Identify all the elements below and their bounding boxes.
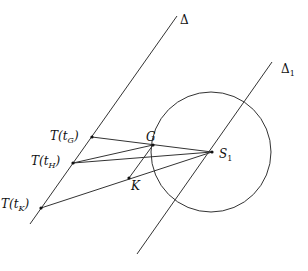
label-t-th-sub: H [49,161,56,170]
label-t-tk-prefix: T(t [1,197,19,211]
label-g: G [146,131,156,143]
label-t-th-suffix: ) [56,154,61,168]
segment-th-s1 [73,152,212,163]
point-s1 [210,150,213,153]
label-k-text: K [131,179,140,193]
geometry-diagram: Δ Δ1 T(tG) T(tH) T(tK) G K S1 [0,0,308,271]
label-delta-text: Δ [180,13,189,27]
label-t-tg: T(tG) [50,130,79,145]
label-delta1-text: Δ [281,62,290,76]
label-s1-sub: 1 [227,154,232,163]
segment-tk-s1 [41,152,212,208]
label-delta1-sub: 1 [290,69,295,78]
point-tk [39,206,42,209]
line-delta [30,16,177,224]
label-t-th: T(tH) [31,155,60,170]
label-s1-text: S [219,147,227,161]
label-t-tg-prefix: T(t [50,129,68,143]
label-s1: S1 [219,148,232,163]
label-k: K [131,180,140,192]
label-t-tk-suffix: ) [25,197,30,211]
label-delta1: Δ1 [281,63,295,78]
label-t-tg-suffix: ) [74,129,79,143]
point-th [71,161,74,164]
label-t-tk: T(tK) [1,198,29,213]
line-delta1 [137,62,272,254]
label-g-text: G [146,130,156,144]
label-delta: Δ [180,14,189,26]
label-t-th-prefix: T(t [31,154,49,168]
point-tg [90,135,93,138]
